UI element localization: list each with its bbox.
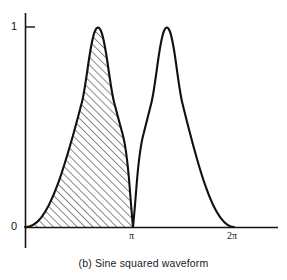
- figure-caption: (b) Sine squared waveform: [0, 257, 287, 269]
- shaded-region-first-hump: [25, 27, 133, 227]
- y-axis-label-zero: 0: [11, 221, 17, 232]
- sine-squared-figure: 1 0 π 2π (b) Sine squared waveform: [0, 0, 287, 280]
- x-axis-label-pi: π: [129, 231, 134, 241]
- plot-canvas: [0, 0, 287, 280]
- y-axis-label-one: 1: [11, 21, 17, 32]
- x-axis-label-two-pi: 2π: [227, 231, 237, 241]
